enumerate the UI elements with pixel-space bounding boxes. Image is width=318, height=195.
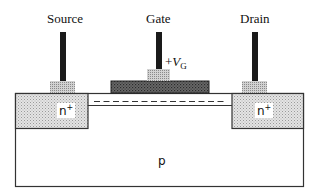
gate-voltage-label: +VG	[165, 54, 187, 70]
drain-nplus-letter: n	[257, 104, 265, 118]
source-nplus-superscript: +	[67, 103, 74, 112]
gate-electrode	[111, 81, 209, 93]
drain-contact-pad	[242, 81, 267, 93]
drain-label: Drain	[240, 11, 270, 27]
source-contact-pad	[50, 81, 75, 93]
source-nplus-label: n+	[57, 103, 75, 118]
drain-terminal-post	[252, 32, 258, 81]
source-nplus-letter: n	[59, 104, 67, 118]
gate-voltage-subscript: G	[180, 61, 187, 71]
gate-label: Gate	[146, 11, 171, 27]
drain-nplus-label: n+	[255, 103, 273, 118]
source-label: Source	[47, 11, 83, 27]
drain-nplus-superscript: +	[265, 103, 272, 112]
source-terminal-post	[60, 32, 66, 81]
gate-contact-pad	[147, 69, 170, 81]
substrate-label: p	[158, 154, 166, 168]
source-nplus-region	[16, 94, 89, 129]
gate-terminal-post	[156, 32, 162, 69]
